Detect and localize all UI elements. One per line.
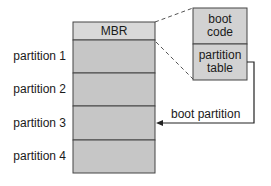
partition-table-label: partition table xyxy=(193,44,247,80)
zoom-line-bottom xyxy=(156,42,193,79)
partition-1-label: partition 1 xyxy=(0,49,66,63)
partition-2-label: partition 2 xyxy=(0,82,66,96)
partition-table-line2: table xyxy=(207,62,233,75)
zoom-line-top xyxy=(155,8,193,22)
boot-code-line2: code xyxy=(207,26,233,39)
boot-partition-label: boot partition xyxy=(171,107,240,121)
boot-code-label: boot code xyxy=(193,8,247,44)
partition-3-block xyxy=(73,106,155,140)
partition-2-block xyxy=(73,73,155,106)
mbr-label: MBR xyxy=(73,22,155,40)
partition-3-label: partition 3 xyxy=(0,116,66,130)
partition-4-label: partition 4 xyxy=(0,149,66,163)
arrowhead-icon xyxy=(156,120,163,126)
partition-1-block xyxy=(73,40,155,73)
partition-4-block xyxy=(73,140,155,173)
